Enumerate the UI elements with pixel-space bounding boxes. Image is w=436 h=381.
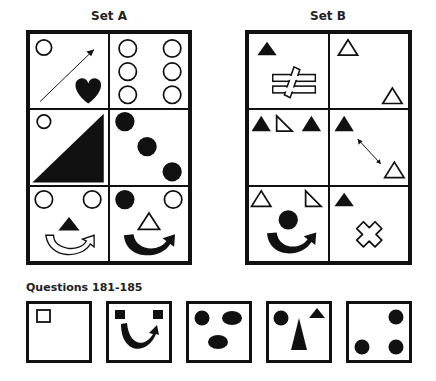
black-oval-icon: [208, 335, 228, 349]
hollow-square-icon: [37, 310, 50, 322]
black-right-triangle-icon: [32, 114, 103, 183]
small-black-triangle-icon: [309, 308, 325, 318]
set-a-cell-5-figure: [30, 187, 108, 261]
set-a-cell-4-figure: [110, 110, 188, 184]
hollow-triangle-icon: [384, 162, 403, 177]
set-a-title: Set A: [24, 9, 194, 23]
hollow-circle-icon: [36, 40, 51, 55]
question-183-figure: [189, 304, 249, 360]
hollow-circle-icon: [35, 191, 52, 208]
set-a-cell-1-figure: [30, 34, 108, 108]
set-b-cell-4-figure: [330, 110, 409, 184]
question-184-box: [266, 301, 332, 363]
set-b-grid: [245, 30, 412, 265]
question-182-figure: [109, 304, 169, 360]
black-circle-icon: [355, 340, 370, 355]
hollow-triangle-icon: [382, 88, 401, 103]
black-oval-icon: [222, 311, 242, 325]
hollow-triangle-icon: [338, 40, 357, 55]
set-a-cell-3: [29, 109, 109, 185]
black-circle-icon: [389, 340, 404, 355]
black-curved-arrow-icon: [124, 234, 175, 255]
black-square-icon: [153, 310, 163, 319]
hollow-right-triangle-icon: [306, 191, 321, 206]
set-b-title: Set B: [243, 9, 413, 23]
question-185-figure: [349, 304, 409, 360]
black-circle-icon: [115, 190, 134, 209]
set-b-cell-6-figure: [330, 187, 409, 261]
black-circle-icon: [195, 311, 210, 326]
set-a-cell-1: [29, 33, 109, 109]
set-a-grid: [26, 30, 192, 265]
black-heart-icon: [76, 78, 102, 103]
black-square-icon: [115, 310, 125, 319]
set-b-cell-5: [248, 186, 329, 262]
hollow-circle-icon: [37, 115, 51, 129]
three-black-circles-icon: [115, 112, 182, 182]
set-b-cell-2-figure: [330, 34, 409, 108]
black-triangle-icon: [58, 217, 79, 231]
black-triangle-icon: [257, 42, 276, 56]
set-b-cell-1-figure: [249, 34, 328, 108]
set-b-cell-2: [329, 33, 410, 109]
black-circle-icon: [274, 311, 289, 326]
black-triangle-icon: [302, 116, 321, 131]
set-a-cell-2: [109, 33, 189, 109]
set-a-cell-6-figure: [110, 187, 188, 261]
six-hollow-circles-icon: [119, 40, 181, 104]
question-181-figure: [29, 304, 89, 360]
set-a-cell-3-figure: [30, 110, 108, 184]
question-182-box: [106, 301, 172, 363]
set-b-cell-3: [248, 109, 329, 185]
hollow-curved-arrow-icon: [46, 235, 94, 254]
question-181-box: [26, 301, 92, 363]
double-arrow-icon: [357, 139, 380, 164]
set-a-cell-5: [29, 186, 109, 262]
black-circle-icon: [279, 210, 298, 229]
black-circle-icon: [389, 310, 404, 325]
hollow-cross-icon: [356, 221, 381, 246]
question-183-box: [186, 301, 252, 363]
set-a-cell-4: [109, 109, 189, 185]
question-184-figure: [269, 304, 329, 360]
hollow-triangle-icon: [138, 213, 159, 229]
hollow-right-triangle-icon: [277, 116, 292, 131]
hollow-circle-icon: [83, 191, 100, 208]
questions-title: Questions 181-185: [26, 281, 142, 294]
set-b-cell-1: [248, 33, 329, 109]
set-a-cell-6: [109, 186, 189, 262]
not-equal-sign-icon: [273, 67, 315, 98]
set-b-cell-6: [329, 186, 410, 262]
black-curved-arrow-icon: [267, 232, 316, 253]
black-triangle-icon: [334, 116, 353, 131]
set-b-cell-3-figure: [249, 110, 328, 184]
question-185-box: [346, 301, 412, 363]
set-a-cell-2-figure: [110, 34, 188, 108]
black-triangle-icon: [252, 116, 271, 131]
hollow-triangle-icon: [252, 191, 271, 206]
tall-black-triangle-icon: [291, 318, 307, 350]
hollow-circle-icon: [164, 191, 181, 208]
set-b-cell-4: [329, 109, 410, 185]
black-curved-arrow-icon: [121, 323, 159, 349]
black-triangle-icon: [334, 192, 353, 206]
set-b-cell-5-figure: [249, 187, 328, 261]
